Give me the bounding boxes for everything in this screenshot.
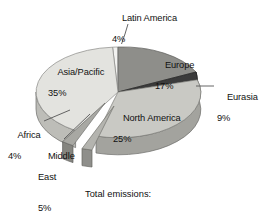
slice-label-europe-name: Europe [165, 60, 194, 70]
slice-label-middle-east: Middle East 5% [38, 141, 75, 220]
slice-label-africa: Africa 4% [8, 120, 41, 182]
slice-label-latin-america-pct: 4% [112, 34, 177, 44]
slice-label-africa-name: Africa [17, 130, 40, 140]
slice-label-middle-east-name2: East [38, 172, 75, 182]
slice-label-north-america: North America 25% [113, 103, 181, 165]
slice-label-middle-east-pct: 5% [38, 203, 75, 213]
slice-label-north-america-pct: 25% [113, 134, 181, 144]
slice-label-asia-pacific-pct: 35% [48, 88, 104, 98]
chart-caption: Total emissions: 7.2 billion metric tons… [85, 166, 172, 220]
slice-label-asia-pacific: Asia/Pacific 35% [48, 57, 104, 119]
slice-label-asia-pacific-name: Asia/Pacific [57, 67, 104, 77]
slice-side-middle-east [82, 149, 92, 167]
slice-label-middle-east-name: Middle [48, 151, 75, 161]
slice-label-eurasia: Eurasia 9% [217, 82, 258, 144]
slice-label-africa-pct: 4% [8, 151, 41, 161]
slice-label-eurasia-pct: 9% [217, 113, 258, 123]
slice-label-eurasia-name: Eurasia [227, 92, 258, 102]
slice-label-latin-america-name: Latin America [122, 13, 177, 23]
pie-chart-figure: Latin America 4% Europe 17% Eurasia 9% A… [0, 0, 265, 220]
slice-label-europe-pct: 17% [155, 81, 194, 91]
slice-label-north-america-name: North America [123, 113, 181, 123]
caption-line-1: Total emissions: [85, 189, 172, 201]
